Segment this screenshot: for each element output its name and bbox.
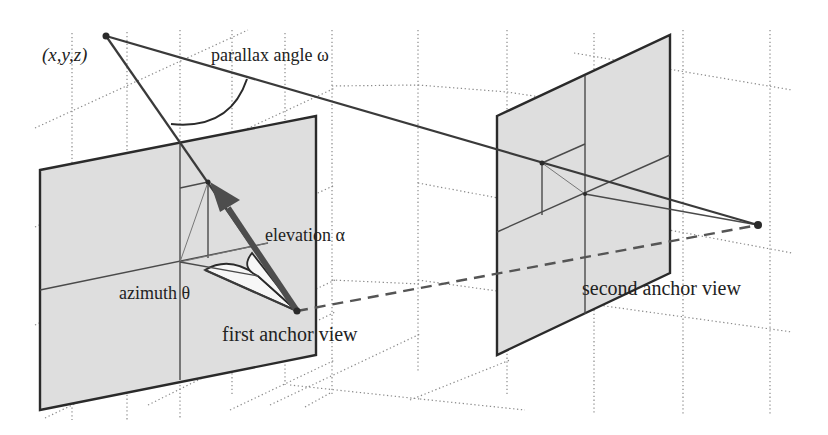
principal-dot-second (583, 192, 587, 196)
world-point-dot (103, 33, 110, 40)
second-image-plane (497, 35, 758, 355)
projection-dot-first (206, 180, 211, 185)
second-anchor-dot (754, 221, 762, 229)
label-second-anchor-view: second anchor view (582, 277, 741, 299)
label-first-anchor-view: first anchor view (222, 323, 358, 345)
label-parallax-angle: parallax angle ω (211, 45, 329, 65)
first-image-plane (40, 116, 316, 410)
label-elevation: elevation α (265, 225, 345, 245)
parallax-geometry-diagram: (x,y,z) parallax angle ω elevation α azi… (0, 0, 828, 435)
label-world-point: (x,y,z) (42, 44, 87, 66)
projection-dot-second (540, 161, 545, 166)
label-azimuth: azimuth θ (119, 283, 190, 303)
first-anchor-dot (294, 308, 301, 315)
parallax-angle-arc (171, 79, 247, 125)
